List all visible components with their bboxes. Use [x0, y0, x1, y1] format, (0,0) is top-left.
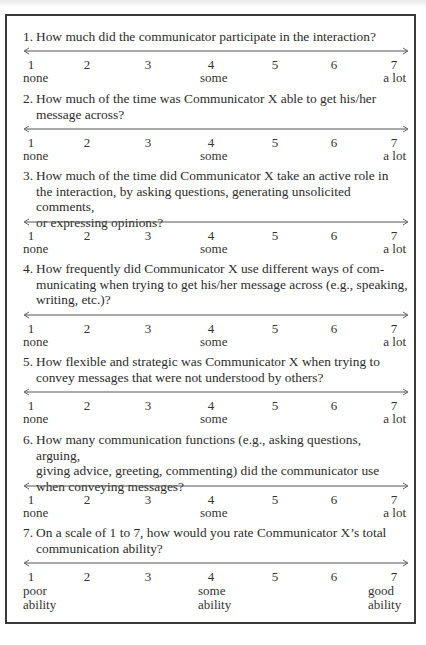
- rating-scale-arrow: [23, 482, 409, 490]
- scale-point-5[interactable]: 5: [272, 229, 279, 243]
- page-top-shadow: [0, 0, 426, 8]
- scale-point-1[interactable]: 1: [28, 570, 35, 584]
- scale-point-5[interactable]: 5: [272, 570, 279, 584]
- question-number: 1.: [23, 29, 33, 45]
- question-line: How much of the time did Communicator X …: [23, 168, 408, 184]
- double-arrow-icon: [23, 388, 409, 396]
- anchor-mid: some: [200, 149, 227, 164]
- anchor-mid: some: [200, 506, 227, 521]
- question-text: 1. How much did the communicator partici…: [23, 29, 408, 45]
- question-number: 3.: [23, 168, 33, 184]
- question-line: writing, etc.)?: [23, 292, 408, 308]
- anchor-high: a lot: [383, 242, 406, 257]
- anchor-mid: some: [200, 71, 227, 86]
- scale-point-6[interactable]: 6: [331, 493, 338, 507]
- scale-point-3[interactable]: 3: [145, 570, 152, 584]
- question-number: 7.: [23, 525, 33, 541]
- anchor-low: none: [23, 149, 48, 164]
- double-arrow-icon: [23, 311, 409, 319]
- scale-point-5[interactable]: 5: [272, 399, 279, 413]
- anchor-high: a lot: [383, 149, 406, 164]
- anchor-low: none: [23, 412, 48, 427]
- anchor-low-line2: ability: [23, 598, 56, 613]
- scale-point-2[interactable]: 2: [84, 58, 91, 72]
- question-number: 5.: [23, 354, 33, 370]
- scale-point-6[interactable]: 6: [331, 136, 338, 150]
- question-text: 4. How frequently did Communicator X use…: [23, 261, 408, 308]
- question-line: How many communication functions (e.g., …: [23, 432, 408, 463]
- rating-scale-arrow: [23, 47, 409, 55]
- question-line: On a scale of 1 to 7, how would you rate…: [23, 525, 408, 541]
- scale-point-5[interactable]: 5: [272, 136, 279, 150]
- scale-point-3[interactable]: 3: [145, 399, 152, 413]
- question-line: How much did the communicator participat…: [23, 29, 408, 45]
- anchor-high: a lot: [383, 335, 406, 350]
- scale-point-4[interactable]: 4: [208, 570, 215, 584]
- double-arrow-icon: [23, 482, 409, 490]
- question-line: convey messages that were not understood…: [23, 370, 408, 386]
- question-text: 2. How much of the time was Communicator…: [23, 91, 408, 122]
- question-number: 4.: [23, 261, 33, 277]
- anchor-high-line2: ability: [368, 598, 401, 613]
- question-text: 7. On a scale of 1 to 7, how would you r…: [23, 525, 408, 556]
- scale-point-2[interactable]: 2: [84, 570, 91, 584]
- question-line: giving advice, greeting, commenting) did…: [23, 463, 408, 479]
- scale-point-2[interactable]: 2: [84, 322, 91, 336]
- questionnaire-box: 1. How much did the communicator partici…: [5, 14, 416, 624]
- scale-point-2[interactable]: 2: [84, 493, 91, 507]
- scale-point-6[interactable]: 6: [331, 570, 338, 584]
- question-line: How much of the time was Communicator X …: [23, 91, 408, 107]
- scale-point-3[interactable]: 3: [145, 136, 152, 150]
- anchor-low: none: [23, 71, 48, 86]
- question-line: How frequently did Communicator X use di…: [23, 261, 408, 277]
- question-line: municating when trying to get his/her me…: [23, 277, 408, 293]
- question-line: How flexible and strategic was Communica…: [23, 354, 408, 370]
- scale-point-3[interactable]: 3: [145, 229, 152, 243]
- double-arrow-icon: [23, 218, 409, 226]
- question-number: 2.: [23, 91, 33, 107]
- question-number: 6.: [23, 432, 33, 448]
- scale-point-5[interactable]: 5: [272, 58, 279, 72]
- rating-scale-arrow: [23, 125, 409, 133]
- anchor-low: none: [23, 335, 48, 350]
- scale-point-5[interactable]: 5: [272, 322, 279, 336]
- anchor-mid-line2: ability: [198, 598, 231, 613]
- scale-point-2[interactable]: 2: [84, 136, 91, 150]
- question-line: message across?: [23, 107, 408, 123]
- anchor-low: none: [23, 242, 48, 257]
- scale-point-2[interactable]: 2: [84, 399, 91, 413]
- scale-point-7[interactable]: 7: [391, 570, 398, 584]
- scale-point-6[interactable]: 6: [331, 58, 338, 72]
- anchor-mid: some: [200, 412, 227, 427]
- scale-point-6[interactable]: 6: [331, 322, 338, 336]
- scale-point-3[interactable]: 3: [145, 58, 152, 72]
- scale-point-6[interactable]: 6: [331, 399, 338, 413]
- double-arrow-icon: [23, 47, 409, 55]
- scale-point-3[interactable]: 3: [145, 493, 152, 507]
- anchor-mid: some: [200, 242, 227, 257]
- anchor-high: a lot: [383, 412, 406, 427]
- anchor-high: a lot: [383, 506, 406, 521]
- question-line: the interaction, by asking questions, ge…: [23, 184, 408, 215]
- double-arrow-icon: [23, 125, 409, 133]
- scale-point-3[interactable]: 3: [145, 322, 152, 336]
- scale-point-5[interactable]: 5: [272, 493, 279, 507]
- rating-scale-arrow: [23, 388, 409, 396]
- rating-scale-arrow: [23, 559, 409, 567]
- question-line: communication ability?: [23, 541, 408, 557]
- question-text: 5. How flexible and strategic was Commun…: [23, 354, 408, 385]
- scale-point-6[interactable]: 6: [331, 229, 338, 243]
- scale-point-2[interactable]: 2: [84, 229, 91, 243]
- anchor-low: none: [23, 506, 48, 521]
- anchor-high: a lot: [383, 71, 406, 86]
- rating-scale-arrow: [23, 311, 409, 319]
- rating-scale-arrow: [23, 218, 409, 226]
- double-arrow-icon: [23, 559, 409, 567]
- anchor-mid: some: [200, 335, 227, 350]
